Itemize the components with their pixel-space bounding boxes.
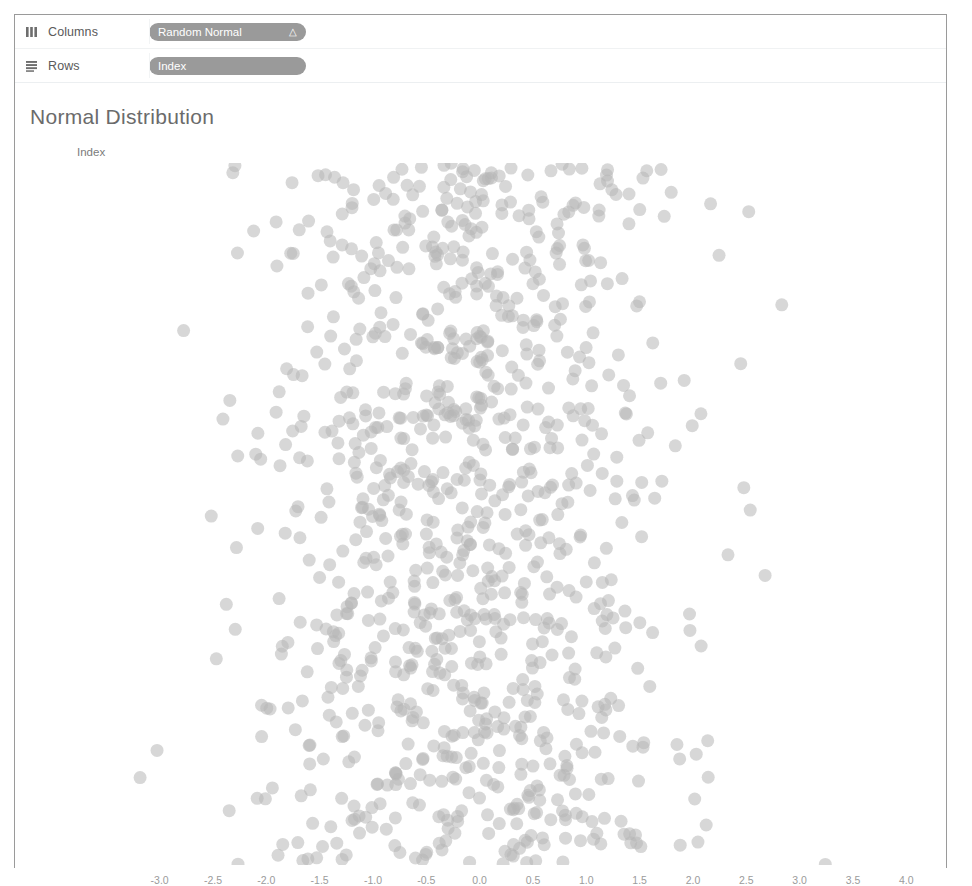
x-tick-label: 0.5 <box>526 874 541 886</box>
columns-icon <box>25 26 39 38</box>
x-tick-label: 2.0 <box>686 874 701 886</box>
page-title: Normal Distribution <box>30 105 214 129</box>
delta-icon: △ <box>289 23 297 41</box>
columns-shelf-label: Columns <box>48 25 98 39</box>
x-tick-label: 2.5 <box>739 874 754 886</box>
columns-shelf[interactable]: Columns Random Normal △ <box>15 15 946 49</box>
visualization-area: Normal Distribution Index -3.0-2.5-2.0-1… <box>15 83 946 869</box>
x-tick-label: 0.0 <box>472 874 487 886</box>
shelf-divider <box>149 19 150 44</box>
x-tick-label: 3.0 <box>792 874 807 886</box>
viz-window: Columns Random Normal △ Rows Index Norma… <box>14 14 947 868</box>
x-tick-label: 1.0 <box>579 874 594 886</box>
pill-index-label: Index <box>158 57 186 75</box>
rows-shelf-label-group: Rows <box>15 59 149 73</box>
rows-icon <box>25 60 39 72</box>
x-tick-label: -1.5 <box>311 874 329 886</box>
x-tick-label: -3.0 <box>151 874 169 886</box>
x-tick-label: 4.0 <box>899 874 914 886</box>
x-tick-label: -1.0 <box>364 874 382 886</box>
x-tick-label: -0.5 <box>417 874 435 886</box>
row-header-label: Index <box>77 146 105 158</box>
pill-index[interactable]: Index <box>149 57 306 75</box>
x-tick-label: -2.5 <box>204 874 222 886</box>
x-tick-label: -2.0 <box>257 874 275 886</box>
scatter-plot-panel[interactable] <box>133 163 933 865</box>
rows-shelf-label: Rows <box>48 59 80 73</box>
x-tick-label: 1.5 <box>632 874 647 886</box>
scatter-marks-canvas[interactable] <box>133 163 933 865</box>
rows-shelf[interactable]: Rows Index <box>15 49 946 83</box>
pill-random-normal-label: Random Normal <box>158 23 242 41</box>
pill-random-normal[interactable]: Random Normal △ <box>149 23 306 41</box>
columns-shelf-label-group: Columns <box>15 25 149 39</box>
shelf-divider <box>149 53 150 78</box>
x-tick-label: 3.5 <box>846 874 861 886</box>
